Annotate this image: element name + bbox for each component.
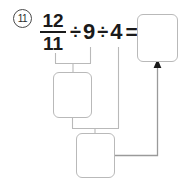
answer-box-step1[interactable] bbox=[53, 72, 92, 118]
result-arrow-path bbox=[115, 66, 158, 156]
answer-box-final[interactable] bbox=[137, 14, 178, 62]
answer-box-step2[interactable] bbox=[76, 133, 115, 178]
worksheet-problem: 11 12 11 ÷ 9 ÷ 4 = bbox=[0, 0, 189, 191]
